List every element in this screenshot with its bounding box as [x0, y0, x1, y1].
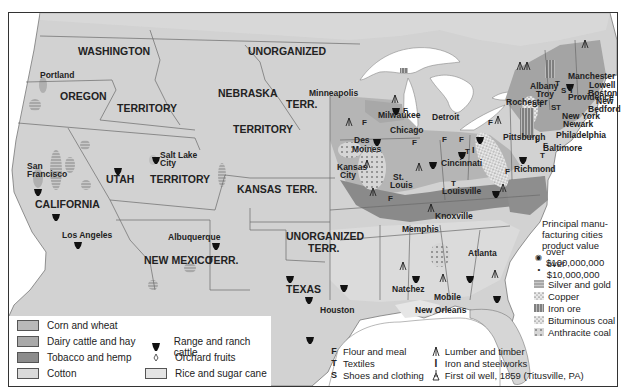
legend-label: First oil well, 1859 (Titusville, PA) — [445, 370, 584, 381]
territory-label: TERR. — [308, 242, 340, 254]
city-label: Houston — [320, 305, 354, 315]
legend-label: Dairy cattle and hay — [47, 336, 135, 347]
legend-item-flour: F Flour and meal — [328, 345, 424, 357]
city-label: Mobile — [434, 292, 461, 302]
city-label: Portland — [40, 70, 74, 80]
legend-label: Silver and gold — [548, 279, 611, 290]
city-label: Baltimore — [543, 143, 582, 153]
svg-text:S: S — [532, 100, 538, 109]
cattle-icon — [519, 157, 527, 164]
bituminous-swatch — [534, 316, 544, 324]
flour-symbol: F — [328, 346, 340, 356]
cattle-icon — [305, 297, 313, 304]
territory-label: TERR. — [207, 254, 239, 266]
territory-label: UNORGANIZED — [286, 230, 365, 242]
legend-industry: F Flour and meal T Textiles S Shoes and … — [328, 345, 584, 381]
legend-item-oil-well: First oil well, 1859 (Titusville, PA) — [430, 369, 584, 381]
svg-text:T: T — [556, 103, 561, 112]
city-label: Minneapolis — [309, 88, 358, 98]
heading-line: facturing cities — [542, 229, 618, 240]
svg-text:F: F — [388, 194, 393, 203]
legend-item-small-city: • over $10,000,000 — [534, 263, 618, 275]
territory-label: TERRITORY — [117, 102, 177, 114]
cattle-icon — [52, 214, 60, 221]
territory-label: TERR. — [286, 98, 318, 110]
city-label: Memphis — [402, 224, 439, 234]
svg-text:I: I — [570, 85, 573, 95]
legend-item-tobacco: Tobacco and hemp — [17, 352, 132, 363]
city-label: Philadelphia — [556, 130, 606, 140]
city-label: City — [160, 158, 176, 168]
territory-label: TERRITORY — [233, 123, 293, 135]
lumber-icon — [517, 62, 523, 70]
legend-label: Tobacco and hemp — [47, 352, 132, 363]
city-label: Francisco — [27, 169, 67, 179]
orchard-icon — [145, 352, 167, 363]
lumber-icon — [492, 270, 498, 278]
svg-text:S: S — [551, 103, 557, 112]
tobacco-swatch — [17, 352, 39, 363]
cattle-icon — [286, 276, 294, 283]
shoes-symbol: S — [328, 370, 340, 380]
map-container: WASHINGTONOREGONTERRITORYUNORGANIZEDNEBR… — [0, 0, 627, 390]
territory-label: OREGON — [60, 90, 107, 102]
territory-label: TEXAS — [286, 283, 321, 295]
city-label: Milwaukee — [378, 110, 421, 120]
territory-label: KANSAS — [237, 183, 281, 195]
lumber-icon — [428, 204, 434, 212]
territory-label: UNORGANIZED — [248, 45, 327, 57]
legend-item-corn: Corn and wheat — [17, 320, 118, 331]
cattle-icon — [212, 243, 220, 250]
lumber-icon — [582, 40, 588, 48]
city-label: Louis — [390, 180, 413, 190]
svg-text:T: T — [451, 179, 456, 188]
cattle-icons — [34, 84, 574, 344]
legend-item-iron-steel: I Iron and steelworks — [430, 357, 584, 369]
legend-item-shoes: S Shoes and clothing — [328, 369, 424, 381]
legend-item-anthracite: Anthracite coal — [534, 326, 618, 338]
cattle-icon — [476, 137, 484, 144]
lumber-icon — [495, 116, 501, 124]
legend-crops: Corn and wheat Dairy cattle and hay Toba… — [9, 316, 271, 386]
legend-item-orchard: Orchard fruits — [145, 352, 236, 363]
iron-steel-symbol: I — [430, 358, 442, 369]
cattle-icon — [152, 157, 160, 164]
city-label: Richmond — [514, 164, 556, 174]
territory-label: WASHINGTON — [78, 45, 150, 57]
cattle-icon — [34, 189, 42, 196]
svg-text:S: S — [561, 86, 567, 95]
territory-label: CALIFORNIA — [35, 198, 100, 210]
legend-item-cotton: Cotton — [17, 368, 76, 379]
svg-text:F: F — [412, 138, 417, 147]
city-label: Cincinnati — [441, 158, 482, 168]
cattle-icon — [466, 276, 474, 283]
legend-item-rice: Rice and sugar cane — [145, 368, 267, 379]
city-label: Pittsburgh — [503, 132, 546, 142]
territory-labels: WASHINGTONOREGONTERRITORYUNORGANIZEDNEBR… — [35, 45, 365, 295]
textiles-symbol: T — [328, 358, 340, 368]
lumber-icon — [370, 188, 376, 196]
cattle-icon — [340, 285, 348, 292]
cattle-icon — [306, 337, 314, 344]
rice-swatch — [145, 368, 167, 379]
city-label: New Orleans — [415, 305, 467, 315]
svg-text:F: F — [488, 118, 493, 127]
lumber-icon — [400, 262, 406, 270]
territory-label: UTAH — [106, 173, 134, 185]
legend-label: Orchard fruits — [175, 352, 236, 363]
legend-item-textiles: T Textiles — [328, 357, 424, 369]
legend-item-iron-ore: Iron ore — [534, 302, 618, 314]
city-label: Bedford — [588, 104, 621, 114]
territory-label: NEBRASKA — [218, 87, 278, 99]
oil-well-icon — [430, 370, 442, 381]
legend-label: Flour and meal — [343, 346, 406, 357]
legend-item-lumber: Lumber and timber — [430, 345, 584, 357]
cotton-swatch — [17, 368, 39, 379]
territory-label: TERRITORY — [150, 173, 210, 185]
city-label: Troy — [536, 89, 554, 99]
svg-text:F: F — [459, 135, 464, 144]
city-label: Los Angeles — [62, 230, 112, 240]
silver-gold-swatch — [534, 280, 544, 288]
lumber-icon — [416, 163, 422, 171]
city-label: City — [340, 170, 356, 180]
